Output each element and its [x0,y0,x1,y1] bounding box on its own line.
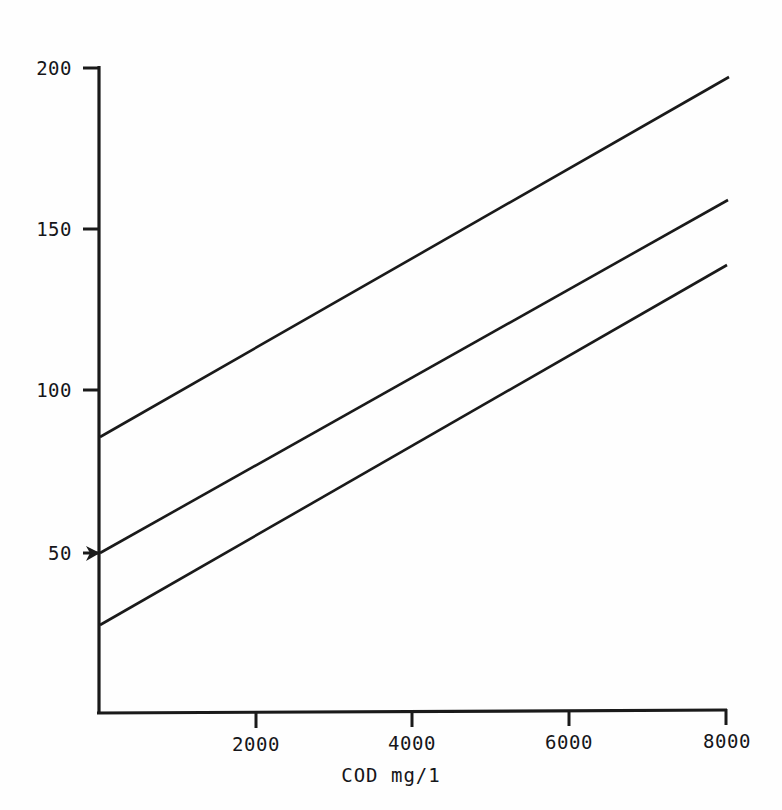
series-line-upper [100,77,729,437]
y-tick-label-100: 100 [22,379,72,401]
x-tick-label-4000: 4000 [388,732,436,754]
x-tick-label-2000: 2000 [232,733,280,755]
x-tick-label-6000: 6000 [545,731,593,753]
y-tick-label-200: 200 [22,57,72,79]
chart-figure: 200 150 100 50 2000 4000 6000 8000 COD m… [0,0,782,810]
x-tick-label-8000: 8000 [703,730,751,752]
chart-plot-area [0,0,782,810]
x-axis-title: COD mg/1 [0,764,782,786]
y-tick-label-150: 150 [22,218,72,240]
y-tick-label-50: 50 [22,542,72,564]
series-line-middle [100,200,728,553]
series-line-lower [100,265,727,625]
